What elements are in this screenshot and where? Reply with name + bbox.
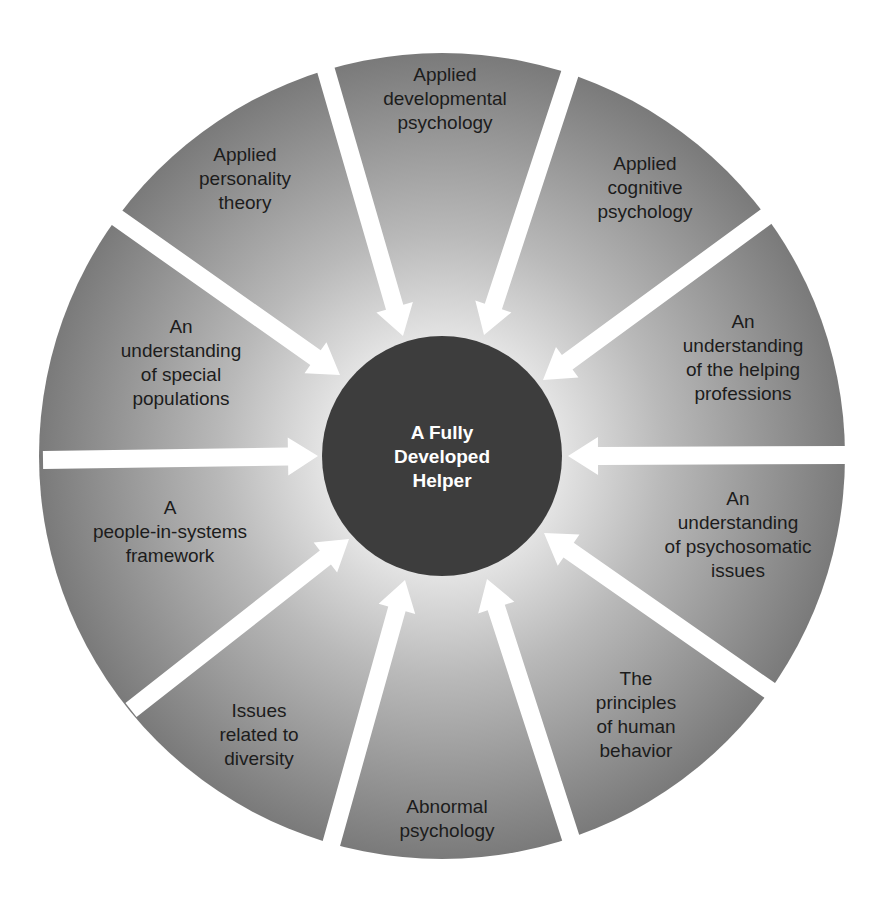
segment-label-abnormal-psychology: Abnormalpsychology bbox=[399, 795, 494, 843]
segment-label-line: developmental bbox=[383, 87, 507, 111]
segment-label-line: personality bbox=[199, 167, 291, 191]
segment-label-line: issues bbox=[665, 559, 812, 583]
segment-label-line: related to bbox=[219, 723, 298, 747]
segment-label-applied-personality-theory: Appliedpersonalitytheory bbox=[199, 143, 291, 215]
segment-label-line: understanding bbox=[665, 511, 812, 535]
segment-label-applied-cognitive-psychology: Appliedcognitivepsychology bbox=[597, 152, 692, 224]
segment-label-line: populations bbox=[121, 387, 241, 411]
segment-label-line: Abnormal bbox=[399, 795, 494, 819]
segment-label-line: Applied bbox=[199, 143, 291, 167]
segment-label-line: of the helping bbox=[683, 358, 803, 382]
segment-label-line: of human bbox=[596, 715, 676, 739]
segment-label-people-in-systems-framework: Apeople-in-systemsframework bbox=[93, 496, 247, 568]
segment-label-line: psychology bbox=[383, 111, 507, 135]
segment-label-line: psychology bbox=[399, 819, 494, 843]
segment-label-understanding-helping-professions: Anunderstandingof the helpingprofessions bbox=[683, 310, 803, 406]
segment-label-line: The bbox=[596, 667, 676, 691]
segment-label-line: professions bbox=[683, 382, 803, 406]
segment-label-line: behavior bbox=[596, 739, 676, 763]
center-title-line-2: Developed bbox=[394, 445, 490, 469]
segment-label-line: understanding bbox=[683, 334, 803, 358]
segment-label-line: psychology bbox=[597, 200, 692, 224]
segment-label-issues-related-to-diversity: Issuesrelated todiversity bbox=[219, 699, 298, 771]
segment-label-principles-human-behavior: Theprinciplesof humanbehavior bbox=[596, 667, 676, 763]
segment-label-line: An bbox=[121, 315, 241, 339]
segment-label-line: An bbox=[665, 487, 812, 511]
segment-label-line: A bbox=[93, 496, 247, 520]
segment-label-line: Issues bbox=[219, 699, 298, 723]
segment-label-understanding-special-populations: Anunderstandingof specialpopulations bbox=[121, 315, 241, 411]
segment-label-understanding-psychosomatic-issues: Anunderstandingof psychosomaticissues bbox=[665, 487, 812, 583]
segment-label-line: people-in-systems bbox=[93, 520, 247, 544]
segment-label-line: diversity bbox=[219, 747, 298, 771]
segment-label-line: theory bbox=[199, 191, 291, 215]
segment-label-line: framework bbox=[93, 544, 247, 568]
segment-label-line: cognitive bbox=[597, 176, 692, 200]
segment-label-applied-developmental-psychology: Applieddevelopmentalpsychology bbox=[383, 63, 507, 135]
segment-label-line: understanding bbox=[121, 339, 241, 363]
segment-label-line: of special bbox=[121, 363, 241, 387]
segment-label-line: Applied bbox=[597, 152, 692, 176]
segment-label-line: of psychosomatic bbox=[665, 535, 812, 559]
segment-label-line: Applied bbox=[383, 63, 507, 87]
center-title-line-1: A Fully bbox=[394, 421, 490, 445]
segment-label-line: An bbox=[683, 310, 803, 334]
center-title-line-3: Helper bbox=[394, 469, 490, 493]
center-title: A Fully Developed Helper bbox=[394, 421, 490, 493]
segment-label-line: principles bbox=[596, 691, 676, 715]
